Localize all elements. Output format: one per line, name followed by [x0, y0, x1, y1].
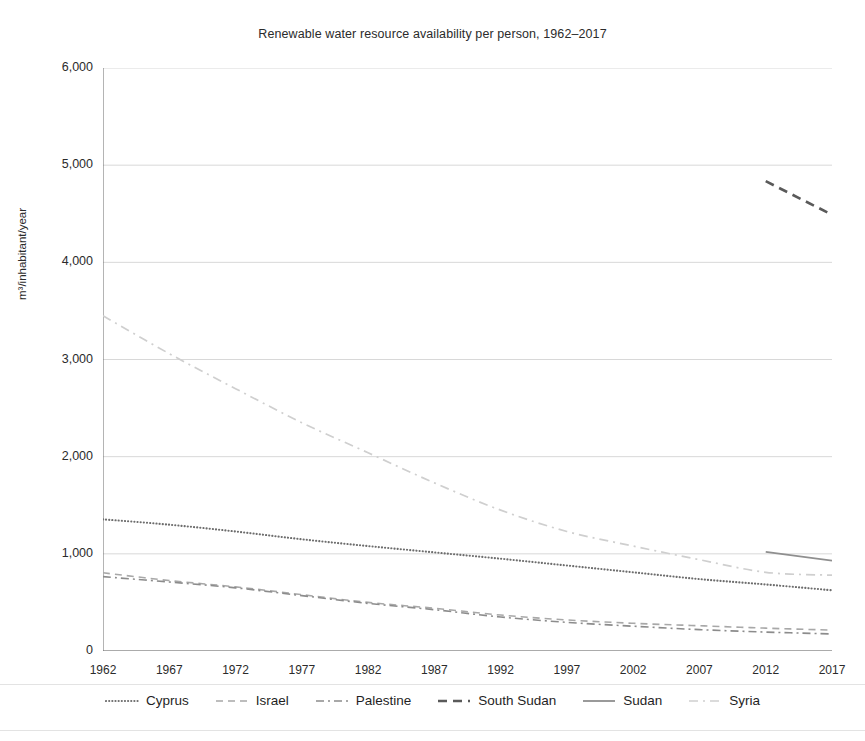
plot-svg: [103, 68, 832, 651]
legend-swatch-icon: [688, 695, 722, 707]
legend-swatch-icon: [315, 695, 349, 707]
legend-swatch-icon: [215, 695, 249, 707]
series-line-cyprus: [103, 519, 832, 590]
y-axis-tick-label: 0: [31, 643, 93, 657]
legend-label: Israel: [256, 693, 289, 708]
legend-label: Palestine: [356, 693, 412, 708]
y-axis-tick-label: 1,000: [31, 546, 93, 560]
x-axis-tick-label: 1982: [338, 663, 398, 677]
x-axis-tick-label: 2007: [669, 663, 729, 677]
legend-swatch-icon: [582, 695, 616, 707]
chart-title: Renewable water resource availability pe…: [0, 27, 865, 41]
series-line-syria: [103, 316, 832, 575]
legend-item-sudan[interactable]: Sudan: [582, 693, 662, 708]
legend-label: Cyprus: [146, 693, 189, 708]
x-axis-tick-label: 1972: [206, 663, 266, 677]
x-axis-tick-label: 1977: [272, 663, 332, 677]
legend-label: Sudan: [623, 693, 662, 708]
legend-swatch-icon: [105, 695, 139, 707]
series-line-sudan: [766, 552, 832, 561]
legend-item-israel[interactable]: Israel: [215, 693, 289, 708]
x-axis-tick-label: 1967: [139, 663, 199, 677]
x-axis-tick-label: 1962: [73, 663, 133, 677]
plot-area: [103, 68, 832, 651]
legend-divider-bottom: [0, 730, 865, 731]
y-axis-label: m³/inhabitant/year: [16, 208, 28, 300]
legend-item-palestine[interactable]: Palestine: [315, 693, 412, 708]
x-axis-tick-label: 1997: [537, 663, 597, 677]
legend-item-cyprus[interactable]: Cyprus: [105, 693, 189, 708]
y-axis-tick-label: 5,000: [31, 157, 93, 171]
y-axis-tick-label: 2,000: [31, 449, 93, 463]
y-axis-tick-label: 4,000: [31, 254, 93, 268]
x-axis-tick-label: 1987: [404, 663, 464, 677]
y-axis-tick-label: 3,000: [31, 352, 93, 366]
series-line-south-sudan: [766, 181, 832, 215]
x-axis-tick-label: 2012: [736, 663, 796, 677]
x-axis-tick-label: 2017: [802, 663, 862, 677]
legend-item-south-sudan[interactable]: South Sudan: [437, 693, 556, 708]
chart-container: Renewable water resource availability pe…: [0, 0, 865, 741]
chart-legend: CyprusIsraelPalestineSouth SudanSudanSyr…: [0, 693, 865, 708]
legend-divider-top: [0, 684, 865, 685]
legend-item-syria[interactable]: Syria: [688, 693, 760, 708]
x-axis-tick-label: 2002: [603, 663, 663, 677]
legend-label: Syria: [729, 693, 760, 708]
series-line-palestine: [103, 577, 832, 634]
legend-swatch-icon: [437, 695, 471, 707]
x-axis-tick-label: 1992: [471, 663, 531, 677]
y-axis-tick-label: 6,000: [31, 60, 93, 74]
legend-label: South Sudan: [478, 693, 556, 708]
